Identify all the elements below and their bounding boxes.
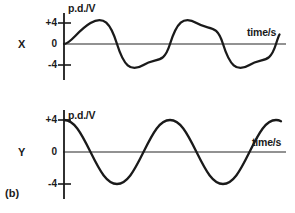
x-axis-label-bottom: time/s	[252, 137, 281, 148]
y-axis-label-bottom: p.d./V	[68, 110, 95, 121]
graph-y	[58, 110, 286, 199]
y-axis-label-top: p.d./V	[68, 3, 95, 14]
y-tick-label-plus4-top: +4	[34, 18, 57, 28]
trace-label-y: Y	[18, 147, 25, 158]
y-tick-label-zero-top: 0	[34, 39, 57, 49]
part-label: (b)	[5, 188, 19, 199]
y-tick-label-minus4-top: -4	[34, 60, 57, 70]
physics-waveform-figure: p.d./V time/s +4 0 -4 X p.d./V time/s +4…	[0, 0, 295, 213]
graph-x	[58, 13, 286, 80]
y-tick-label-minus4-bottom: -4	[34, 179, 57, 189]
y-tick-label-zero-bottom: 0	[34, 147, 57, 157]
trace-label-x: X	[18, 39, 25, 50]
x-axis-label-top: time/s	[247, 27, 276, 38]
y-tick-label-plus4-bottom: +4	[34, 115, 57, 125]
